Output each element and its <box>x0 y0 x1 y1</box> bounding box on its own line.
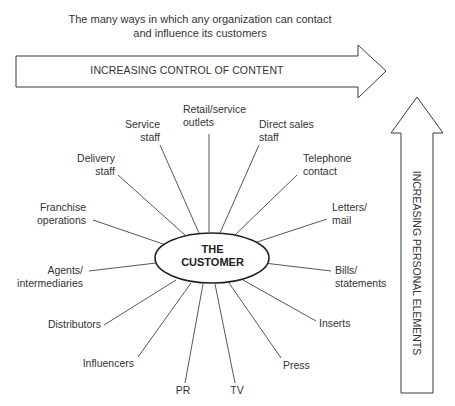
label-tv: TV <box>225 384 249 397</box>
spoke-letters <box>254 219 327 243</box>
spoke-direct-sales <box>220 145 259 233</box>
label-influencers: Influencers <box>70 357 134 370</box>
spoke-service-staff <box>160 145 199 233</box>
label-distributors: Distributors <box>30 318 101 331</box>
horizontal-arrow-label: INCREASING CONTROL OF CONTENT <box>16 64 358 76</box>
label-service-staff: Servicestaff <box>124 118 160 144</box>
label-press: Press <box>283 359 310 372</box>
spoke-bills <box>264 263 331 271</box>
spoke-agents <box>89 263 156 271</box>
spoke-delivery-staff <box>118 175 185 235</box>
spoke-pr <box>185 284 203 383</box>
label-pr: PR <box>170 384 196 397</box>
label-telephone-contact: Telephonecontact <box>303 152 351 178</box>
label-agents-intermediaries: Agents/intermediaries <box>12 264 83 290</box>
spoke-tv <box>215 284 235 383</box>
label-letters-mail: Letters/mail <box>332 201 367 227</box>
label-delivery-staff: Deliverystaff <box>66 152 115 178</box>
spoke-franchise <box>93 220 166 245</box>
spoke-telephone <box>235 175 297 235</box>
label-direct-sales-staff: Direct salesstaff <box>259 118 314 144</box>
customer-label: THE CUSTOMER <box>155 243 270 269</box>
label-retail-outlets: Retail/serviceoutlets <box>183 103 246 129</box>
vertical-arrow-label: INCREASING PERSONAL ELEMENTS <box>411 171 423 356</box>
label-franchise-operations: Franchiseoperations <box>30 201 86 227</box>
label-bills-statements: Bills/statements <box>335 264 386 290</box>
spoke-inserts <box>243 280 316 321</box>
spoke-press <box>229 283 281 358</box>
label-inserts: Inserts <box>319 317 351 330</box>
spoke-influencers <box>138 283 191 357</box>
